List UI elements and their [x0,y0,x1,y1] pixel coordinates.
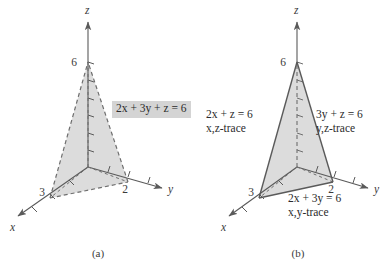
xy-trace-label: 2x + 3y = 6 x,y-trace [288,192,341,219]
xz-trace-label: 2x + z = 6 x,z-trace [206,108,253,135]
panel-b-graphic: z y x 6 2 3 [0,0,389,274]
y-axis-label-b: y [373,183,380,196]
figure-container: z y x 6 2 3 2x + 3y + z = 6 (a) [0,0,389,274]
x-axis-label-b: x [220,221,227,233]
z-intercept-label-b: 6 [280,56,286,68]
x-intercept-label-b: 3 [248,186,254,198]
z-axis-label-b: z [293,4,299,16]
panel-b-caption: (b) [278,247,318,259]
yz-trace-label: 3y + z = 6 y,z-trace [316,108,363,135]
